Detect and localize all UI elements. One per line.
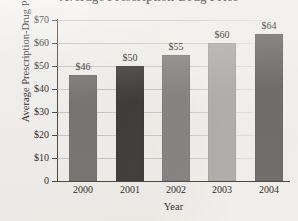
bar [255, 34, 283, 181]
bar-value-label: $60 [200, 30, 244, 40]
bar [162, 55, 190, 182]
x-axis-line [57, 181, 290, 182]
y-axis-tick-label: $40 [3, 84, 49, 94]
y-axis-tick-label: $70 [3, 15, 49, 25]
bar [116, 66, 144, 181]
x-axis-title: Year [57, 201, 290, 212]
bar-value-label: $46 [61, 62, 105, 72]
x-axis-tick-label: 2000 [59, 185, 107, 195]
y-axis-tick-label: $50 [3, 61, 49, 71]
x-axis-tick-label: 2003 [198, 185, 246, 195]
x-axis-tick-label: 2002 [152, 185, 200, 195]
chart-title: Average Prescription-Drug Price [0, 0, 298, 5]
bar-value-label: $55 [154, 42, 198, 52]
bar-value-label: $64 [247, 21, 291, 31]
bar-value-label: $50 [108, 53, 152, 63]
y-axis-tick-label: $20 [3, 130, 49, 140]
y-axis-tick [52, 181, 57, 182]
plot-area: $46$50$55$60$64 [57, 20, 289, 181]
y-axis-tick-label: $30 [3, 107, 49, 117]
y-axis-tick-label: $10 [3, 153, 49, 163]
y-axis-tick-label: 0 [3, 176, 49, 186]
chart-figure: Average Prescription-Drug Price Average … [0, 0, 298, 221]
y-axis-tick-label: $60 [3, 38, 49, 48]
x-axis-tick-label: 2004 [245, 185, 293, 195]
bar [69, 75, 97, 181]
x-axis-tick-label: 2001 [106, 185, 154, 195]
bar [208, 43, 236, 181]
